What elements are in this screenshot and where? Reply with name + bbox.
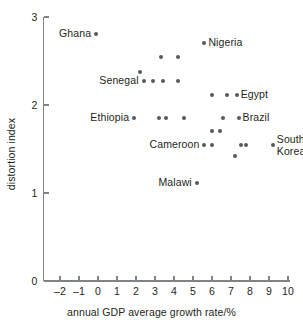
scatter-chart: –2–10123456789100123GhanaNigeriaSenegalE… [0,0,303,324]
data-point [182,116,186,120]
x-tick-label: –1 [73,285,85,297]
data-point [142,79,146,83]
y-tick-label: 0 [25,275,38,287]
point-label: Egypt [241,90,268,101]
y-tick-label: 1 [25,187,38,199]
data-point [218,129,222,133]
y-axis-title: distortion index [5,99,17,209]
data-point [151,79,155,83]
data-point [176,55,180,59]
x-axis-title: annual GDP average growth rate/% [0,306,303,318]
data-point [202,143,206,147]
data-point [225,93,229,97]
x-tick-label: 9 [266,285,272,297]
x-tick-label: 4 [171,285,177,297]
x-tick-label: 5 [190,285,196,297]
data-point [271,143,275,147]
x-tick-label: 7 [228,285,234,297]
point-label: Malawi [159,178,192,189]
data-point [159,55,163,59]
point-label: Ghana [59,28,91,39]
point-label: Senegal [99,76,138,87]
data-point [210,93,214,97]
x-tick-label: 10 [282,285,294,297]
data-point [176,79,180,83]
data-point [210,143,214,147]
data-point [164,116,168,120]
data-point [138,70,142,74]
x-tick-label: 0 [95,285,101,297]
y-tick-label: 3 [25,11,38,23]
x-tick-label: 6 [209,285,215,297]
data-point [161,79,165,83]
data-point [210,129,214,133]
point-label: Cameroon [150,140,200,151]
x-tick-label: 3 [152,285,158,297]
x-tick-label: –2 [54,285,66,297]
data-point [221,116,225,120]
data-point [239,143,243,147]
x-tick-label: 1 [114,285,120,297]
point-label: South Korea [277,134,303,157]
y-tick-label: 2 [25,99,38,111]
data-point [132,116,136,120]
point-label: Ethiopia [90,113,129,124]
data-point [157,116,161,120]
data-point [244,143,248,147]
x-tick-label: 2 [133,285,139,297]
data-point [235,93,239,97]
data-point [94,32,98,36]
point-label: Brazil [243,113,270,124]
data-point [233,154,237,158]
data-point [195,181,199,185]
x-tick-label: 8 [247,285,253,297]
data-point [237,116,241,120]
point-label: Nigeria [208,37,242,48]
plot-area: –2–10123456789100123GhanaNigeriaSenegalE… [0,0,303,324]
data-point [202,41,206,45]
